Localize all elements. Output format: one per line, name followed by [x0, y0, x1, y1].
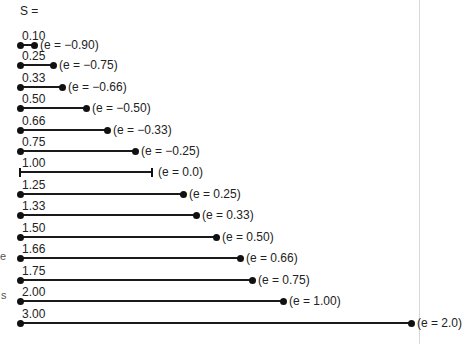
endpoint-dot-icon	[17, 105, 24, 112]
length-bar	[20, 150, 135, 152]
scale-value-label: 0.33	[22, 72, 45, 84]
exponent-label: (e = 2.0)	[417, 317, 462, 329]
exponent-label: (e = −0.33)	[113, 124, 172, 136]
endpoint-dot-icon	[104, 127, 111, 134]
endpoint-dot-icon	[132, 148, 139, 155]
scale-exponent-diagram: S = e s 0.10(e = −0.90)0.25(e = −0.75)0.…	[0, 0, 470, 344]
end-tick-icon	[19, 168, 21, 177]
endpoint-dot-icon	[17, 42, 24, 49]
exponent-label: (e = 0.50)	[222, 231, 274, 243]
scale-value-label: 1.00	[22, 157, 45, 169]
endpoint-dot-icon	[59, 84, 66, 91]
endpoint-dot-icon	[193, 212, 200, 219]
length-bar	[20, 193, 183, 195]
length-bar	[20, 64, 53, 66]
endpoint-dot-icon	[17, 84, 24, 91]
length-bar	[20, 214, 196, 216]
endpoint-dot-icon	[17, 127, 24, 134]
endpoint-dot-icon	[180, 191, 187, 198]
length-bar	[20, 322, 411, 324]
endpoint-dot-icon	[31, 42, 38, 49]
endpoint-dot-icon	[408, 320, 415, 327]
length-bar	[20, 129, 107, 131]
scale-value-label: 1.66	[22, 243, 45, 255]
scale-value-label: 0.75	[22, 136, 45, 148]
endpoint-dot-icon	[50, 62, 57, 69]
length-bar	[20, 257, 240, 259]
endpoint-dot-icon	[17, 148, 24, 155]
exponent-label: (e = 0.33)	[202, 209, 254, 221]
length-bar	[20, 86, 62, 88]
endpoint-dot-icon	[83, 105, 90, 112]
endpoint-dot-icon	[280, 298, 287, 305]
endpoint-dot-icon	[17, 62, 24, 69]
length-bar	[20, 107, 86, 109]
scale-value-label: 1.25	[22, 179, 45, 191]
exponent-label: (e = −0.50)	[92, 102, 151, 114]
exponent-label: (e = 0.75)	[258, 274, 310, 286]
scale-value-label: 2.00	[22, 286, 45, 298]
endpoint-dot-icon	[213, 234, 220, 241]
scale-value-label: 0.25	[22, 50, 45, 62]
length-bar	[20, 279, 252, 281]
cropped-edge-text: s	[1, 289, 7, 301]
exponent-label: (e = −0.90)	[40, 39, 99, 51]
exponent-label: (e = −0.25)	[141, 145, 200, 157]
endpoint-dot-icon	[17, 234, 24, 241]
cropped-edge-text: e	[0, 250, 6, 262]
length-bar	[20, 300, 283, 302]
length-bar	[20, 171, 152, 173]
length-bar	[20, 236, 216, 238]
exponent-label: (e = 0.66)	[246, 252, 298, 264]
exponent-label: (e = −0.75)	[59, 59, 118, 71]
exponent-label: (e = −0.66)	[68, 81, 127, 93]
scale-value-label: 0.50	[22, 93, 45, 105]
endpoint-dot-icon	[17, 255, 24, 262]
scale-value-label: 1.33	[22, 200, 45, 212]
scale-value-label: 1.75	[22, 265, 45, 277]
endpoint-dot-icon	[249, 277, 256, 284]
endpoint-dot-icon	[237, 255, 244, 262]
endpoint-dot-icon	[17, 277, 24, 284]
exponent-label: (e = 1.00)	[289, 295, 341, 307]
endpoint-dot-icon	[17, 191, 24, 198]
scale-value-label: 1.50	[22, 222, 45, 234]
exponent-label: (e = 0.0)	[158, 166, 203, 178]
s-equals-header: S =	[20, 4, 38, 18]
endpoint-dot-icon	[17, 298, 24, 305]
scale-value-label: 0.66	[22, 115, 45, 127]
endpoint-dot-icon	[17, 320, 24, 327]
endpoint-dot-icon	[17, 212, 24, 219]
exponent-label: (e = 0.25)	[189, 188, 241, 200]
end-tick-icon	[151, 168, 153, 177]
right-edge-divider	[419, 0, 420, 344]
scale-value-label: 3.00	[22, 308, 45, 320]
